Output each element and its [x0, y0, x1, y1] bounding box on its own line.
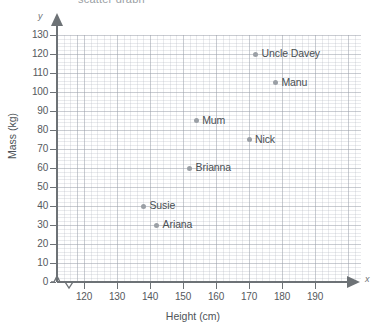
data-point-label: Brianna	[196, 161, 232, 173]
x-tick-mark	[315, 283, 316, 289]
data-point	[273, 80, 278, 85]
y-tick-label: 0	[20, 276, 48, 287]
y-tick-label: 40	[20, 200, 48, 211]
y-axis-line	[56, 24, 58, 282]
x-tick-label: 180	[265, 291, 299, 302]
x-tick-label: 170	[232, 291, 266, 302]
data-point	[194, 118, 199, 123]
data-point-label: Ariana	[163, 218, 193, 230]
data-point	[247, 137, 252, 142]
y-tick-label: 130	[20, 29, 48, 40]
y-tick-label: 120	[20, 48, 48, 59]
y-tick-mark	[50, 130, 56, 131]
y-tick-mark	[50, 54, 56, 55]
data-point-label: Uncle Davey	[262, 47, 320, 59]
x-tick-mark	[249, 283, 250, 289]
scatter-chart-figure: scatter graph y x 0102030405060708090100…	[0, 0, 386, 332]
y-axis-letter: y	[38, 11, 43, 21]
y-axis-arrow-icon	[51, 13, 63, 26]
x-tick-mark	[282, 283, 283, 289]
x-tick-label: 150	[166, 291, 200, 302]
y-tick-mark	[50, 225, 56, 226]
y-tick-label: 70	[20, 143, 48, 154]
chart-title-clipped: scatter graph	[78, 0, 258, 3]
y-tick-label: 90	[20, 105, 48, 116]
x-tick-mark	[216, 283, 217, 289]
x-axis-title: Height (cm)	[0, 310, 386, 322]
y-tick-mark	[50, 111, 56, 112]
x-tick-mark	[84, 283, 85, 289]
y-tick-mark	[50, 206, 56, 207]
y-tick-label: 30	[20, 219, 48, 230]
data-point-label: Manu	[281, 76, 307, 88]
data-point	[187, 166, 192, 171]
x-tick-label: 160	[199, 291, 233, 302]
x-axis-arrow-icon	[347, 276, 360, 288]
data-point	[253, 52, 258, 57]
x-axis-line	[57, 281, 349, 283]
y-tick-label: 10	[20, 257, 48, 268]
y-tick-mark	[50, 149, 56, 150]
y-tick-mark	[50, 187, 56, 188]
y-tick-mark	[50, 35, 56, 36]
x-tick-label: 120	[67, 291, 101, 302]
data-point-label: Susie	[149, 199, 175, 211]
x-tick-label: 140	[133, 291, 167, 302]
y-tick-label: 20	[20, 238, 48, 249]
data-point-label: Nick	[255, 133, 275, 145]
y-tick-label: 50	[20, 181, 48, 192]
data-point-label: Mum	[202, 114, 225, 126]
y-tick-label: 110	[20, 67, 48, 78]
y-tick-mark	[50, 73, 56, 74]
y-tick-label: 60	[20, 162, 48, 173]
x-tick-mark	[183, 283, 184, 289]
y-tick-label: 80	[20, 124, 48, 135]
data-point	[141, 204, 146, 209]
y-tick-mark	[50, 92, 56, 93]
y-tick-mark	[50, 282, 56, 283]
x-tick-mark	[150, 283, 151, 289]
x-axis-letter: x	[365, 274, 370, 284]
x-tick-mark	[117, 283, 118, 289]
y-tick-mark	[50, 168, 56, 169]
plot-grid-area	[57, 35, 361, 282]
y-axis-title: Mass (kg)	[6, 91, 18, 181]
y-tick-mark	[50, 263, 56, 264]
x-tick-label: 130	[100, 291, 134, 302]
x-axis-break-icon	[58, 274, 84, 290]
x-tick-label: 190	[298, 291, 332, 302]
y-tick-mark	[50, 244, 56, 245]
y-tick-label: 100	[20, 86, 48, 97]
data-point	[154, 223, 159, 228]
